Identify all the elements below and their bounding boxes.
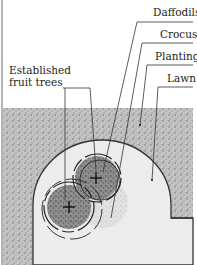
label-fruit-trees-1: Established (9, 64, 71, 76)
label-crocus: Crocus (160, 28, 197, 40)
planting-area-left (3, 218, 33, 265)
label-daffodils: Daffodils (153, 6, 197, 18)
label-fruit-trees-2: fruit trees (9, 76, 63, 88)
label-lawn: Lawn (167, 72, 196, 84)
label-planting: Planting (155, 50, 197, 62)
